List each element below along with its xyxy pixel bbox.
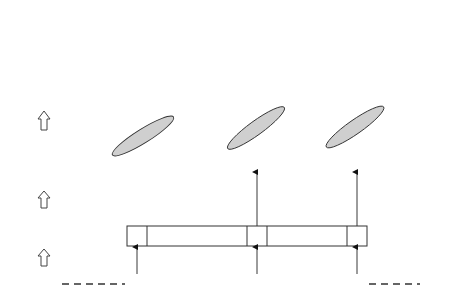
- up-arrow-icon: [38, 249, 50, 266]
- up-arrow-icon: [38, 111, 50, 130]
- input-group-2: [224, 102, 289, 154]
- input-group-ellipse: [109, 111, 177, 161]
- markov-chain-box: [127, 226, 367, 246]
- input-group-1: [109, 111, 177, 161]
- input-group-3: [322, 101, 387, 153]
- input-group-ellipse: [322, 101, 387, 153]
- dna-neural-network-diagram: [0, 0, 455, 303]
- input-group-ellipse: [224, 102, 289, 154]
- up-arrow-icon: [38, 191, 50, 208]
